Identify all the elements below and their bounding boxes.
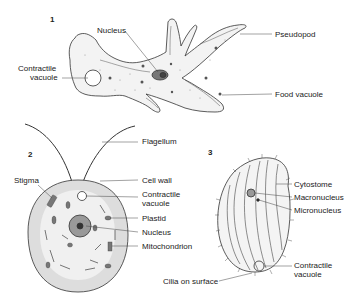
label-mitochondrion: Mitochondrion xyxy=(142,242,192,251)
label-micronucleus: Micronucleus xyxy=(294,206,341,215)
label-cell-wall: Cell wall xyxy=(142,176,172,185)
amoeba-drawing xyxy=(69,19,246,112)
label-cilia-on-surface: Cilia on surface xyxy=(163,277,218,286)
label-pseudopod: Pseudopod xyxy=(275,30,315,39)
label-food-vacuole: Food vacuole xyxy=(275,90,323,99)
label-contractile-vacuole-amoeba-line2: vacuole xyxy=(30,73,58,82)
label-plastid: Plastid xyxy=(142,214,166,223)
label-flagellum: Flagellum xyxy=(142,137,177,146)
label-stigma: Stigma xyxy=(14,176,39,185)
label-contractile-vacuole-flagellate-line2: vacuole xyxy=(142,199,170,208)
label-macronucleus: Macronucleus xyxy=(294,193,344,202)
label-nucleus-amoeba: Nucleus xyxy=(97,26,126,35)
label-nucleus-flagellate: Nucleus xyxy=(142,228,171,237)
label-contractile-vacuole-flagellate-line1: Contractile xyxy=(142,190,180,199)
label-contractile-vacuole-ciliate-line1: Contractile xyxy=(294,261,332,270)
label-cytostome: Cytostome xyxy=(294,180,332,189)
figure-number-3: 3 xyxy=(208,148,212,157)
flagellate-drawing xyxy=(25,124,135,292)
diagram-canvas xyxy=(0,0,362,304)
label-contractile-vacuole-amoeba-line1: Contractile xyxy=(18,64,56,73)
ciliate-drawing xyxy=(215,154,294,276)
figure-number-1: 1 xyxy=(50,15,54,24)
figure-number-2: 2 xyxy=(28,150,32,159)
label-contractile-vacuole-ciliate-line2: vacuole xyxy=(294,270,322,279)
